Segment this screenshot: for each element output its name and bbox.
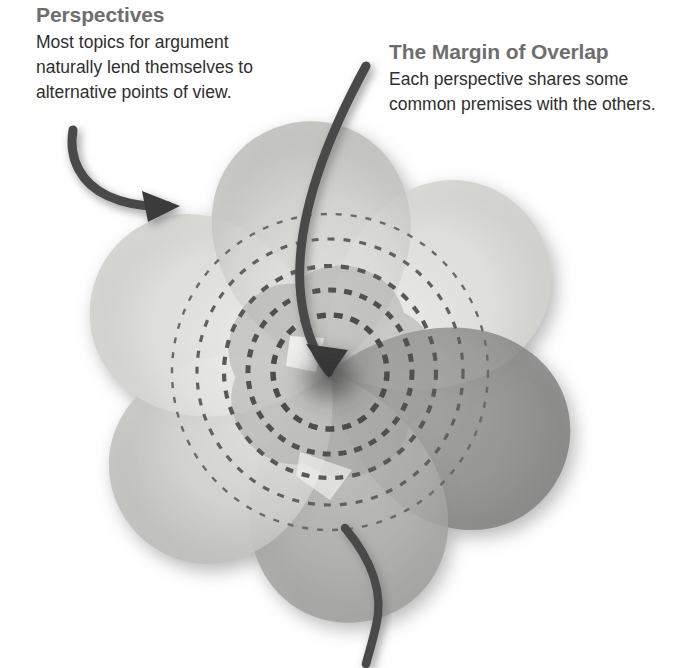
arrow-shaft bbox=[72, 130, 168, 206]
arrow-perspectives bbox=[72, 130, 180, 222]
callout-perspectives-line-1: Most topics for argument bbox=[36, 30, 253, 55]
callout-perspectives-line-2: naturally lend themselves to bbox=[36, 55, 253, 80]
callout-perspectives: Perspectives Most topics for argument na… bbox=[36, 2, 253, 105]
callout-margin-of-overlap-line-1: Each perspective shares some bbox=[389, 67, 656, 92]
hub-shadow bbox=[304, 358, 356, 398]
callout-perspectives-title: Perspectives bbox=[36, 2, 253, 28]
diagram-canvas: Perspectives Most topics for argument na… bbox=[0, 0, 696, 668]
callout-margin-of-overlap-line-2: common premises with the others. bbox=[389, 92, 656, 117]
callout-margin-of-overlap-title: The Margin of Overlap bbox=[389, 39, 656, 65]
callout-margin-of-overlap: The Margin of Overlap Each perspective s… bbox=[389, 39, 656, 117]
callout-perspectives-line-3: alternative points of view. bbox=[36, 80, 253, 105]
